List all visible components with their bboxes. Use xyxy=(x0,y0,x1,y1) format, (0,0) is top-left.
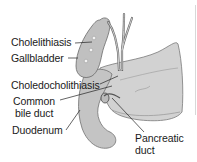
pancreas-shape xyxy=(100,43,183,121)
gallstone xyxy=(89,48,93,52)
label-common-bile-duct-line2: bile duct xyxy=(15,107,53,119)
page-edge-divider xyxy=(195,5,196,115)
label-common-bile-duct-line1: Common xyxy=(13,95,55,107)
label-duodenum: Duodenum xyxy=(12,124,63,136)
label-pancreatic-duct-line1: Pancreatic xyxy=(135,132,184,144)
gallstone xyxy=(92,36,96,40)
label-cholelithiasis: Cholelithiasis xyxy=(11,36,71,48)
label-gallbladder: Gallbladder xyxy=(11,52,64,64)
gallstone xyxy=(84,59,88,63)
label-choledocholithiasis: Choledocholithiasis xyxy=(11,79,100,91)
label-pancreatic-duct-line2: duct xyxy=(135,144,154,156)
